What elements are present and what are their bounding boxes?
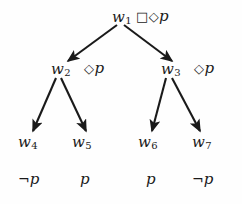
valuation-w4: ¬p: [18, 172, 39, 187]
node-w3: w3: [161, 62, 181, 78]
valuation-w6-prop: p: [146, 170, 156, 188]
annotation-w2-prop: p: [94, 59, 104, 77]
node-w2-label: w: [51, 60, 64, 78]
edge-w1-w3: [124, 25, 172, 61]
modal-operators-box-diamond-icon: □◇: [136, 9, 159, 24]
annotation-w3: ◇p: [194, 61, 214, 76]
node-w3-label: w: [161, 60, 174, 78]
annotation-w1: □◇p: [136, 9, 169, 24]
node-w7-subscript: 7: [205, 140, 211, 151]
valuation-w5: p: [80, 172, 90, 187]
node-w1: w1: [112, 10, 132, 26]
node-w4-subscript: 4: [31, 140, 37, 151]
valuation-w5-prop: p: [80, 170, 90, 188]
edge-w3-w6: [152, 78, 166, 131]
node-w5-label: w: [72, 133, 85, 151]
edge-w3-w7: [172, 78, 200, 131]
negation-icon: ¬: [192, 171, 204, 187]
modal-operator-diamond-icon: ◇: [84, 61, 94, 76]
node-w1-label: w: [112, 8, 125, 26]
edge-w2-w5: [61, 78, 86, 131]
node-w6-subscript: 6: [151, 140, 157, 151]
annotation-w1-prop: p: [159, 7, 169, 25]
modal-operator-diamond-icon: ◇: [194, 61, 204, 76]
node-w2: w2: [51, 62, 71, 78]
node-w4-label: w: [18, 133, 31, 151]
edge-w2-w4: [33, 78, 56, 131]
node-w2-subscript: 2: [64, 67, 70, 78]
node-w5: w5: [72, 135, 92, 151]
edge-w1-w2: [68, 25, 117, 61]
valuation-w6: p: [146, 172, 156, 187]
node-w7-label: w: [192, 133, 205, 151]
valuation-w7: ¬p: [192, 172, 213, 187]
node-w6-label: w: [138, 133, 151, 151]
valuation-w4-prop: p: [30, 170, 40, 188]
annotation-w3-prop: p: [204, 59, 214, 77]
annotation-w2: ◇p: [84, 61, 104, 76]
node-w1-subscript: 1: [125, 15, 131, 26]
node-w7: w7: [192, 135, 212, 151]
valuation-w7-prop: p: [204, 170, 214, 188]
negation-icon: ¬: [18, 171, 30, 187]
modal-logic-tree-diagram: w1 □◇p w2 ◇p w3 ◇p w4 w5 w6 w7 ¬p p p ¬: [0, 0, 242, 204]
node-w6: w6: [138, 135, 158, 151]
node-w5-subscript: 5: [85, 140, 91, 151]
node-w3-subscript: 3: [174, 67, 180, 78]
node-w4: w4: [18, 135, 38, 151]
